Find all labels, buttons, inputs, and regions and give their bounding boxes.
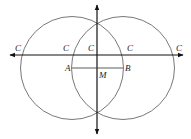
label-c-far-right: C [176, 43, 183, 53]
label-c-right: C [127, 43, 134, 53]
label-c-far-left: C [15, 43, 22, 53]
label-b: B [125, 63, 131, 73]
construction-diagram: C C C C C A B M [0, 0, 191, 139]
label-c-left: C [63, 43, 70, 53]
label-c-center: C [88, 43, 95, 53]
label-m: M [98, 70, 107, 80]
label-a: A [64, 63, 71, 73]
